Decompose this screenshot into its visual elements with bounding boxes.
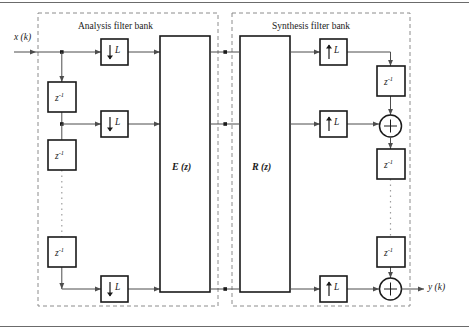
delay-s2-exponent: -1 — [388, 158, 393, 165]
upsampler-3-label: L — [334, 283, 339, 293]
output-signal-label: y (k) — [428, 283, 445, 293]
junction-mid-row1 — [223, 50, 227, 54]
sampler-arrow-glyphs — [107, 45, 332, 297]
delay-a1-label: z-1 — [55, 92, 64, 104]
matrix-R-arg: (z) — [261, 162, 271, 172]
matrix-R-label: R (z) — [252, 162, 271, 173]
delay-a2-label: z-1 — [55, 150, 64, 162]
diagram-canvas: Analysis filter bank Synthesis filter ba… — [0, 0, 469, 329]
matrix-R-symbol: R — [252, 161, 259, 172]
delay-s2-label: z-1 — [384, 159, 393, 171]
synthesis-group-label: Synthesis filter bank — [272, 22, 350, 32]
delay-s1-label: z-1 — [384, 76, 393, 88]
junction-mid-row3 — [223, 287, 227, 291]
delay-a2-exponent: -1 — [59, 149, 64, 156]
matrix-E-label: E (z) — [172, 162, 191, 173]
downsampler-1-label: L — [115, 46, 120, 56]
delay-a3-exponent: -1 — [59, 246, 64, 253]
downsampler-3-label: L — [115, 283, 120, 293]
upsampler-2-label: L — [334, 118, 339, 128]
delay-s3-exponent: -1 — [388, 246, 393, 253]
junction-mid-row2 — [223, 122, 227, 126]
analysis-group-label: Analysis filter bank — [78, 22, 153, 32]
delay-a3-label: z-1 — [55, 247, 64, 259]
input-signal-label: x (k) — [14, 33, 31, 43]
matrix-E-symbol: E — [172, 161, 179, 172]
upsampler-1-label: L — [334, 46, 339, 56]
matrix-E-arg: (z) — [181, 162, 191, 172]
delay-a1-exponent: -1 — [59, 91, 64, 98]
downsampler-2-label: L — [115, 118, 120, 128]
filter-bank-diagram — [0, 0, 469, 329]
delay-s3-label: z-1 — [384, 247, 393, 259]
delay-s1-exponent: -1 — [388, 75, 393, 82]
